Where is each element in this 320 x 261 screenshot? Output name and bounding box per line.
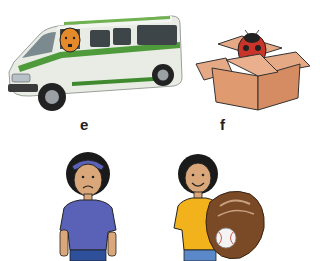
baseball [216, 228, 236, 248]
driver-face [60, 28, 80, 52]
label-e: e [80, 117, 88, 132]
label-f: f [220, 117, 225, 132]
picture-sad-boy [50, 150, 130, 261]
boy-baseball-glove-icon [170, 150, 270, 261]
ladybug-box-icon [190, 30, 320, 110]
picture-e [0, 0, 190, 115]
sad-boy-icon [50, 150, 130, 261]
picture-baseball-boy [170, 150, 270, 261]
picture-f [190, 30, 320, 110]
baseball-glove [206, 191, 264, 258]
van-icon [0, 0, 190, 115]
